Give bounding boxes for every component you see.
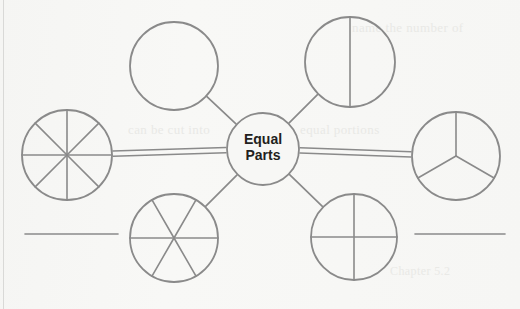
connector-center-to-eighths — [113, 148, 226, 157]
circle-whole-outline — [130, 22, 218, 110]
circle-eighths-divider-6 — [35, 123, 67, 155]
connector-center-to-fourths — [290, 175, 323, 207]
circle-thirds — [412, 112, 500, 200]
circle-fourths — [311, 194, 397, 280]
circle-eighths-divider-4 — [35, 155, 67, 187]
circle-eighths-divider-8 — [67, 123, 99, 155]
connector-center-to-thirds-stroke-b — [300, 148, 411, 152]
circle-sixths — [130, 194, 218, 282]
connector-center-to-thirds — [300, 148, 411, 157]
circle-eighths-divider-2 — [67, 155, 99, 187]
circle-sixths-divider-3 — [152, 238, 174, 276]
center-label-line1: Equal — [221, 131, 305, 147]
circle-whole — [130, 22, 218, 110]
circle-halves — [305, 17, 395, 107]
circle-sixths-divider-2 — [174, 238, 196, 276]
worksheet-page: name the number of can be cut into equal… — [0, 0, 520, 309]
circle-eighths — [22, 110, 112, 200]
connector-center-to-sixths — [206, 175, 237, 206]
connector-center-to-eighths-stroke-b — [113, 153, 226, 156]
center-node-label: Equal Parts — [221, 131, 305, 163]
circle-sixths-divider-6 — [174, 200, 196, 238]
connector-center-to-halves — [289, 95, 317, 123]
center-label-line2: Parts — [221, 147, 305, 163]
circle-thirds-divider-2 — [456, 156, 494, 178]
connector-center-to-eighths-stroke-a — [113, 148, 226, 151]
circle-sixths-divider-5 — [152, 200, 174, 238]
circle-thirds-divider-3 — [418, 156, 456, 178]
connector-center-to-whole — [207, 97, 236, 124]
connector-center-to-thirds-stroke-a — [300, 153, 411, 157]
